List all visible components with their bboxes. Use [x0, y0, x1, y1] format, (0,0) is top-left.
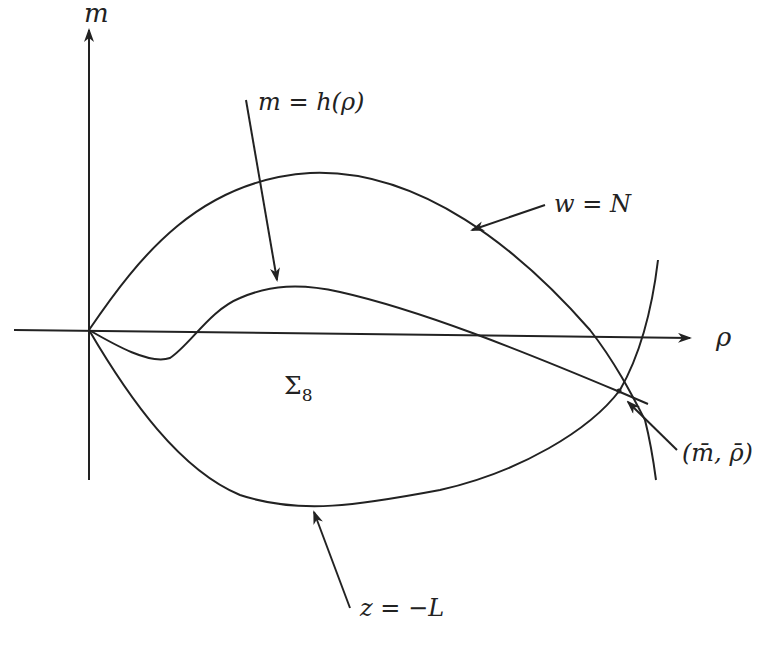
arrow-to-point: [628, 402, 677, 450]
label-intersection-point: (m̄, ρ̄): [682, 439, 753, 467]
label-z-rhs: −L: [408, 594, 444, 622]
label-h-curve: m = h(ρ): [258, 88, 364, 116]
arrow-to-h-curve: [246, 100, 277, 280]
label-h-lhs: m: [258, 88, 281, 116]
x-axis-label: ρ: [715, 322, 732, 352]
arrow-to-z-curve: [314, 512, 350, 608]
diagram-canvas: m ρ Σ8 m = h(ρ) w = N (m̄, ρ̄) z = −L: [0, 0, 759, 648]
label-h-eq: =: [281, 88, 316, 116]
label-z-lhs: z: [359, 594, 373, 622]
label-h-rhs: h(ρ): [316, 88, 364, 116]
label-w-eq: =: [575, 190, 610, 218]
label-w-curve: w = N: [554, 190, 632, 218]
intersection-point: [617, 389, 622, 394]
label-z-eq: =: [373, 594, 408, 622]
diagram-svg: m ρ Σ8 m = h(ρ) w = N (m̄, ρ̄) z = −L: [0, 0, 759, 648]
label-w-lhs: w: [554, 190, 575, 218]
curve-m-equals-h: [89, 286, 648, 404]
region-label-base: Σ: [284, 371, 302, 400]
y-axis-label: m: [84, 0, 109, 28]
x-axis: [14, 330, 690, 338]
region-label-subscript: 8: [302, 385, 313, 405]
region-label: Σ8: [284, 371, 313, 405]
arrow-to-w-curve: [472, 205, 545, 230]
label-z-curve: z = −L: [359, 594, 444, 622]
label-w-rhs: N: [609, 190, 632, 218]
curve-z-equals-minus-L: [89, 260, 658, 506]
